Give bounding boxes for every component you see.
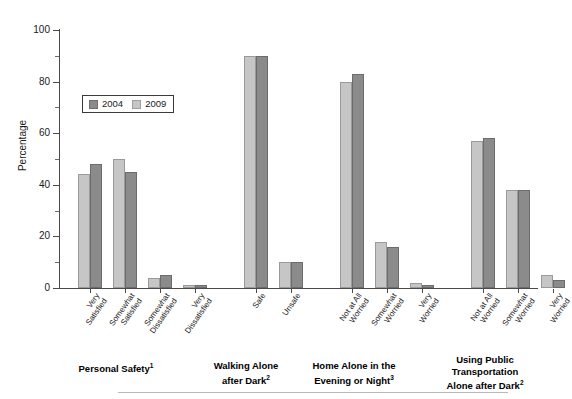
bar-2009: [148, 278, 160, 288]
y-tick-minor: [55, 107, 59, 108]
y-tick-label: 60: [8, 128, 50, 138]
bar-2004: [125, 172, 137, 288]
bar-2009: [244, 56, 256, 288]
legend: 2004 2009: [82, 95, 174, 113]
group-caption-note: 3: [390, 374, 394, 381]
group-caption-line: Walking Alone: [214, 360, 279, 371]
y-tick-major: [53, 236, 59, 237]
x-tick-mark: [195, 289, 196, 293]
bar-2004: [256, 56, 268, 288]
y-tick-label: 40: [8, 180, 50, 190]
y-tick-label: 0: [8, 283, 50, 293]
group-caption-home-alone: Home Alone in the Evening or Night3: [286, 360, 422, 386]
group-caption-line: Home Alone in the: [312, 360, 395, 371]
group-caption-line: Alone after Dark: [446, 380, 519, 391]
y-tick-label: 20: [8, 231, 50, 241]
bar-2009: [183, 285, 195, 288]
y-tick-major: [53, 133, 59, 134]
x-tick-label: Unsafe: [260, 292, 303, 348]
group-caption-line: Using Public: [456, 354, 514, 365]
group-caption-personal-safety: Personal Safety1: [36, 360, 196, 375]
x-tick-mark: [553, 289, 554, 293]
bar-2009: [375, 242, 387, 288]
group-caption-public-transportation: Using Public Transportation Alone after …: [420, 354, 550, 392]
bar-2004: [160, 275, 172, 288]
group-caption-note: 1: [150, 362, 154, 369]
legend-label-2004: 2004: [102, 99, 123, 109]
legend-swatch-2009-icon: [132, 100, 141, 109]
y-tick-major: [53, 185, 59, 186]
y-tick-major: [53, 30, 59, 31]
group-caption-line: Evening or Night: [314, 375, 390, 386]
group-caption-note: 2: [520, 379, 524, 386]
bar-2004: [195, 285, 207, 288]
x-tick-mark: [352, 289, 353, 293]
x-tick-mark: [160, 289, 161, 293]
x-tick-label-line: Unsafe: [260, 292, 303, 348]
bar-2004: [352, 74, 364, 288]
bar-2009: [340, 82, 352, 288]
y-tick-major: [53, 82, 59, 83]
group-caption-line: after Dark: [222, 375, 266, 386]
bar-2004: [90, 164, 102, 288]
legend-item-2004: 2004: [89, 99, 123, 109]
y-tick-major: [53, 288, 59, 289]
y-tick-minor: [55, 159, 59, 160]
legend-swatch-2004-icon: [89, 100, 98, 109]
bar-2004: [518, 190, 530, 288]
x-axis-line: [59, 288, 538, 289]
y-tick-minor: [55, 262, 59, 263]
legend-label-2009: 2009: [145, 99, 166, 109]
bar-2004: [291, 262, 303, 288]
x-tick-mark: [483, 289, 484, 293]
bar-2009: [471, 141, 483, 288]
bar-2009: [113, 159, 125, 288]
group-caption-line: Personal Safety: [79, 363, 150, 374]
bar-2004: [422, 285, 434, 288]
bar-2009: [78, 174, 90, 288]
group-caption-line: Transportation: [452, 366, 519, 377]
y-tick-minor: [55, 56, 59, 57]
y-tick-label: 80: [8, 77, 50, 87]
bar-2004: [387, 247, 399, 288]
x-tick-mark: [422, 289, 423, 293]
y-tick-label: 100: [8, 25, 50, 35]
x-tick-mark: [256, 289, 257, 293]
footer-divider: [118, 392, 508, 393]
x-tick-mark: [125, 289, 126, 293]
legend-item-2009: 2009: [132, 99, 166, 109]
bar-2004: [553, 280, 565, 288]
group-caption-note: 2: [266, 374, 270, 381]
x-tick-mark: [387, 289, 388, 293]
bar-2009: [279, 262, 291, 288]
x-tick-mark: [291, 289, 292, 293]
bar-2004: [483, 138, 495, 288]
bar-2009: [541, 275, 553, 288]
bar-2009: [410, 283, 422, 288]
x-tick-mark: [90, 289, 91, 293]
plot-area: [60, 30, 538, 288]
bar-2009: [506, 190, 518, 288]
x-tick-mark: [518, 289, 519, 293]
y-tick-minor: [55, 211, 59, 212]
